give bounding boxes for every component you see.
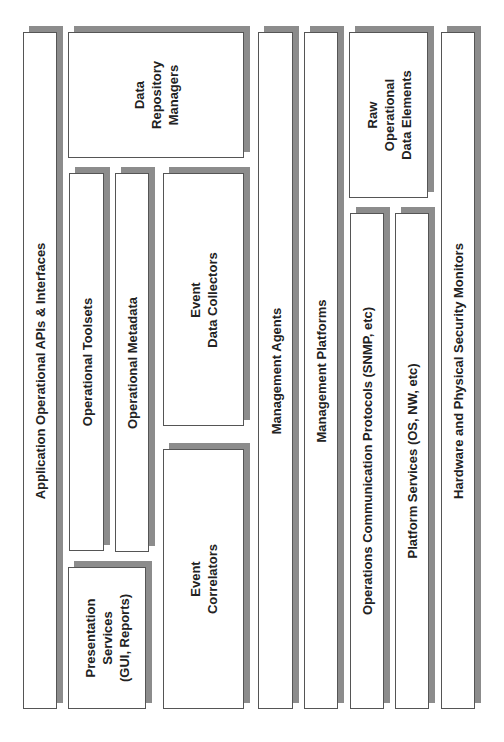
- presentation-services-label: Presentation Services (GUI, Reports): [82, 594, 133, 682]
- platform-services-label: Platform Services (OS, NW, etc): [404, 363, 421, 558]
- app-apis-box: Application Operational APIs & Interface…: [23, 32, 57, 709]
- operational-toolsets-label: Operational Toolsets: [78, 298, 95, 426]
- management-agents-box: Management Agents: [258, 32, 293, 709]
- operational-metadata-label: Operational Metadata: [124, 296, 141, 428]
- event-correlators-box: Event Correlators: [163, 449, 244, 709]
- management-platforms-label: Management Platforms: [313, 299, 330, 442]
- operational-metadata-box: Operational Metadata: [115, 173, 149, 552]
- data-repository-box: Data Repository Managers: [68, 32, 244, 158]
- event-correlators-label: Event Correlators: [187, 544, 221, 614]
- raw-operational-data-box: Raw Operational Data Elements: [349, 32, 428, 198]
- operational-toolsets-box: Operational Toolsets: [69, 173, 104, 551]
- event-data-collectors-box: Event Data Collectors: [163, 173, 244, 426]
- hardware-monitors-label: Hardware and Physical Security Monitors: [450, 243, 467, 499]
- presentation-services-box: Presentation Services (GUI, Reports): [68, 567, 146, 709]
- event-data-collectors-label: Event Data Collectors: [187, 252, 221, 347]
- raw-operational-data-label: Raw Operational Data Elements: [363, 70, 414, 160]
- comm-protocols-label: Operations Communication Protocols (SNMP…: [359, 307, 376, 615]
- platform-services-box: Platform Services (OS, NW, etc): [395, 213, 429, 709]
- comm-protocols-box: Operations Communication Protocols (SNMP…: [350, 213, 384, 709]
- management-platforms-box: Management Platforms: [304, 32, 338, 709]
- hardware-monitors-box: Hardware and Physical Security Monitors: [441, 32, 475, 709]
- app-apis-label: Application Operational APIs & Interface…: [32, 242, 49, 499]
- management-agents-label: Management Agents: [267, 307, 284, 434]
- data-repository-label: Data Repository Managers: [131, 61, 182, 129]
